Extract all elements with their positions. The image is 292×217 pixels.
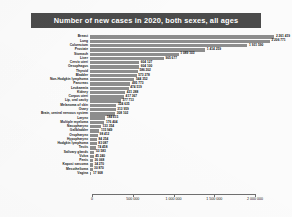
bar [90,104,116,107]
bar-track: 17 908 [90,172,292,176]
bar [90,116,105,119]
bar [90,91,125,94]
bar [90,44,247,47]
bar [90,99,121,102]
bar [90,125,101,128]
bar [90,70,138,73]
bar-row: Vagina17 908 [0,172,292,176]
bar [90,82,130,85]
bar [90,61,139,64]
x-axis-tick-label: 1 500 000 [206,198,222,202]
bar [90,155,94,158]
bar [90,95,124,98]
x-axis-tick-label: 500 000 [126,198,139,202]
bar [90,74,137,77]
bar [90,40,270,43]
bar [90,163,93,166]
bar [90,57,164,60]
bar-value-label: 17 908 [93,172,103,176]
bar [90,108,116,111]
bar [90,142,97,145]
bar [90,151,94,154]
x-axis-tick-label: 1 000 000 [166,198,182,202]
bar [90,159,93,162]
x-axis: 0500 0001 000 0001 500 0002 000 000 [0,194,292,217]
plot-area: Breast2 261 419Lung2 206 771Colorectum1 … [0,35,292,195]
bar [90,35,274,38]
bar [90,172,91,175]
bar [90,138,97,141]
x-axis-tick-label: 0 [91,198,93,202]
category-label: Vagina [0,172,90,175]
chart-title-band: Number of new cases in 2020, both sexes,… [31,13,261,28]
bar [90,129,99,132]
bar [90,65,139,68]
x-axis-tick-label: 2 000 000 [247,198,263,202]
bar [90,87,129,90]
bar [90,78,134,81]
chart-title: Number of new cases in 2020, both sexes,… [54,17,238,24]
chart-page: Number of new cases in 2020, both sexes,… [0,0,292,217]
bar [90,134,98,137]
